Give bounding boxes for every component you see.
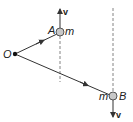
ball-a bbox=[56, 28, 64, 36]
arrow-ob-icon bbox=[80, 82, 88, 86]
pivot-point bbox=[13, 52, 17, 56]
label-b: B bbox=[119, 90, 126, 102]
label-mass-b: m bbox=[99, 90, 108, 102]
physics-diagram: O A m v m B v bbox=[0, 0, 133, 122]
label-mass-a: m bbox=[65, 25, 74, 37]
label-o: O bbox=[3, 48, 12, 60]
label-velocity-a: v bbox=[63, 7, 68, 17]
label-velocity-b: v bbox=[116, 110, 121, 120]
ball-b bbox=[109, 92, 117, 100]
label-a: A bbox=[47, 24, 55, 36]
rod-ob bbox=[15, 54, 110, 95]
arrow-oa-icon bbox=[36, 40, 44, 44]
